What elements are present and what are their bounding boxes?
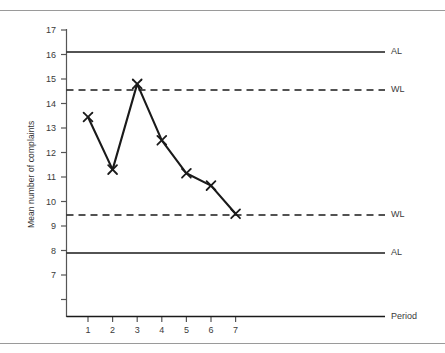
y-tick-label-8: 8 [38, 246, 56, 256]
upper-action-limit-label: AL [391, 46, 402, 56]
upper-warning-limit-label: WL [391, 84, 405, 94]
y-axis-title: Mean number of complaints [26, 121, 36, 228]
y-tick-label-14: 14 [38, 99, 56, 109]
y-tick-label-11: 11 [38, 172, 56, 182]
x-tick-label-7: 7 [229, 325, 243, 335]
y-tick-label-17: 17 [38, 25, 56, 35]
series-line [88, 84, 236, 214]
period-axis-label: Period [391, 311, 417, 321]
lower-action-limit-label: AL [391, 247, 402, 257]
y-tick-label-12: 12 [38, 148, 56, 158]
lower-warning-limit-label: WL [391, 209, 405, 219]
data-point-6 [207, 181, 216, 190]
y-tick-label-9: 9 [38, 221, 56, 231]
data-point-1 [84, 113, 93, 122]
x-tick-label-2: 2 [106, 325, 120, 335]
y-tick-label-7: 7 [38, 270, 56, 280]
x-tick-label-5: 5 [179, 325, 193, 335]
x-tick-label-6: 6 [204, 325, 218, 335]
data-point-4 [157, 136, 166, 145]
y-tick-label-10: 10 [38, 197, 56, 207]
data-point-7 [231, 209, 240, 218]
data-point-markers [84, 80, 240, 219]
data-point-5 [182, 169, 191, 178]
x-tick-marks [88, 317, 236, 323]
chart-page: Mean number of complaints 17 16 15 14 13… [0, 0, 445, 353]
x-tick-label-3: 3 [130, 325, 144, 335]
y-tick-label-16: 16 [38, 50, 56, 60]
control-chart-plot [0, 0, 445, 353]
x-tick-label-1: 1 [81, 325, 95, 335]
y-tick-label-15: 15 [38, 74, 56, 84]
y-tick-label-13: 13 [38, 123, 56, 133]
x-tick-label-4: 4 [155, 325, 169, 335]
y-tick-marks [61, 30, 67, 300]
